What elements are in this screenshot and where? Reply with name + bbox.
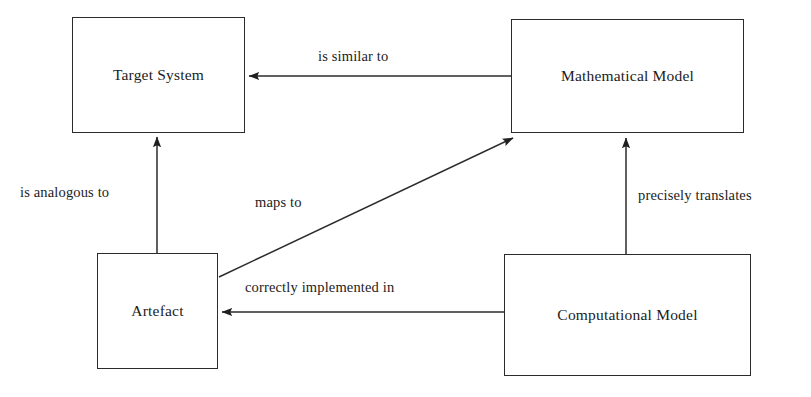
node-label-artefact: Artefact <box>131 302 183 320</box>
diagram-canvas: Target System Mathematical Model Artefac… <box>0 0 811 397</box>
node-target-system[interactable]: Target System <box>72 17 245 133</box>
edge-label-correctly-implemented-in: correctly implemented in <box>245 279 394 296</box>
node-label-target-system: Target System <box>113 66 204 84</box>
node-label-computational-model: Computational Model <box>557 306 697 324</box>
edge-label-maps-to: maps to <box>255 194 302 211</box>
edge-label-is-analogous-to: is analogous to <box>20 184 109 201</box>
edge-label-is-similar-to: is similar to <box>318 48 388 65</box>
node-label-mathematical-model: Mathematical Model <box>561 67 694 85</box>
node-computational-model[interactable]: Computational Model <box>504 254 751 376</box>
node-artefact[interactable]: Artefact <box>97 253 218 369</box>
node-mathematical-model[interactable]: Mathematical Model <box>511 19 744 133</box>
edge-label-precisely-translates: precisely translates <box>638 187 752 204</box>
